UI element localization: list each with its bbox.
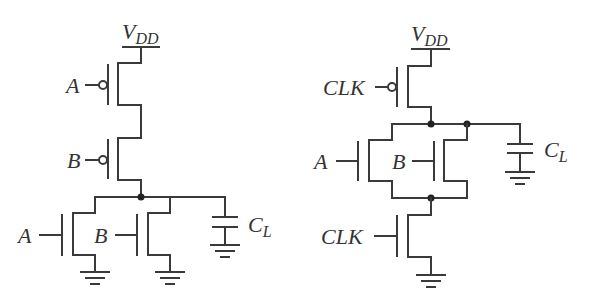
ground-icon <box>506 172 534 184</box>
nmos-a-right: A <box>312 124 392 198</box>
input-label: A <box>312 149 328 174</box>
nmos-clk-evaluate: CLK <box>321 198 445 287</box>
pmos-a-left: A <box>64 47 141 138</box>
right-circuit: VDD CLK A B <box>312 21 568 287</box>
input-label: B <box>94 223 107 248</box>
inverter-bubble-icon <box>388 83 396 91</box>
ground-icon <box>81 272 109 284</box>
nmos-b-right: B <box>392 124 467 198</box>
pmos-b-left: B <box>67 138 141 197</box>
nmos-b-left: B <box>94 197 184 284</box>
left-circuit: VDD A B A <box>16 19 272 284</box>
junction-dot-icon <box>428 121 435 128</box>
inverter-bubble-icon <box>99 81 107 89</box>
load-cap-label-left: CL <box>248 212 272 240</box>
input-label: A <box>16 223 32 248</box>
ground-icon <box>417 275 445 287</box>
vdd-label-left: VDD <box>122 19 159 47</box>
ground-icon <box>156 272 184 284</box>
inverter-bubble-icon <box>99 156 107 164</box>
input-label: A <box>64 73 80 98</box>
input-label: B <box>67 148 80 173</box>
junction-dot-icon <box>138 194 145 201</box>
load-capacitor-left: CL <box>211 197 272 257</box>
clk-label-precharge: CLK <box>323 75 366 100</box>
input-label: B <box>392 149 405 174</box>
ground-icon <box>211 245 239 257</box>
clk-label-evaluate: CLK <box>321 224 364 249</box>
load-capacitor-right: CL <box>506 124 568 184</box>
pmos-clk-precharge: CLK <box>323 49 431 124</box>
circuit-diagram: VDD A B A <box>0 0 589 300</box>
vdd-label-right: VDD <box>411 21 448 49</box>
load-cap-label-right: CL <box>544 137 568 165</box>
